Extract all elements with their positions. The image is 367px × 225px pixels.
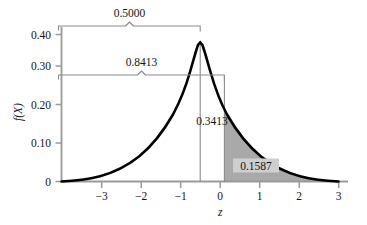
annotation-tail-area: 0.1587: [240, 160, 272, 172]
x-tick-label-3: 3: [336, 190, 342, 202]
y-axis-title: f(X): [12, 103, 25, 121]
annotation-center-area: 0.3413: [196, 115, 228, 127]
y-tick-label-0-10: 0.10: [31, 137, 51, 149]
x-tick-label-0: 0: [217, 190, 223, 202]
normal-distribution-figure: 0 0.10 0.20 0.30 0.40 −3 −2 −1 0 1 2 3 z…: [0, 0, 367, 225]
y-tick-label-0-30: 0.30: [31, 60, 51, 72]
x-tick-label-minus-1: −1: [175, 190, 187, 202]
x-tick-label-minus-2: −2: [135, 190, 147, 202]
annotation-half-area: 0.5000: [114, 7, 146, 19]
x-tick-label-1: 1: [257, 190, 263, 202]
chart-canvas: 0 0.10 0.20 0.30 0.40 −3 −2 −1 0 1 2 3 z…: [0, 0, 367, 225]
brace-half-area: [59, 22, 201, 32]
x-axis-title: z: [217, 206, 223, 218]
annotation-cumulative-area: 0.8413: [126, 56, 158, 68]
brace-cumulative-area: [59, 71, 225, 81]
x-tick-label-minus-3: −3: [96, 190, 108, 202]
y-tick-label-0-20: 0.20: [31, 99, 51, 111]
x-axis-ticks: [102, 182, 339, 189]
x-tick-label-2: 2: [296, 190, 302, 202]
y-tick-label-0-40: 0.40: [31, 29, 51, 41]
y-tick-label-0: 0: [45, 176, 51, 188]
